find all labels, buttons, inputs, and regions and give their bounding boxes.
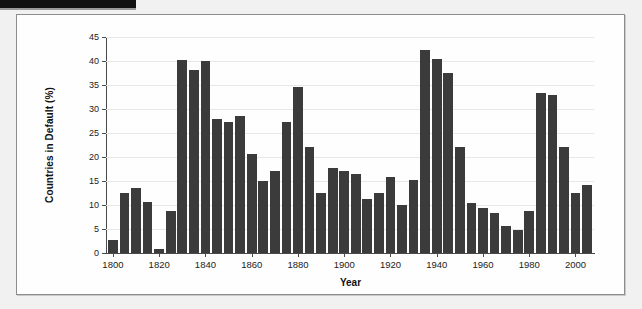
- bar: [339, 171, 349, 253]
- bar: [305, 147, 315, 253]
- y-tick-label: 10: [89, 200, 99, 210]
- y-tick-label: 35: [89, 80, 99, 90]
- y-tick-label: 25: [89, 128, 99, 138]
- bar: [513, 230, 523, 253]
- y-tick-mark: [102, 253, 106, 254]
- bar: [235, 116, 245, 253]
- bar: [536, 93, 546, 253]
- y-tick-mark: [102, 205, 106, 206]
- x-tick-mark: [113, 253, 114, 257]
- y-tick-label: 0: [94, 248, 99, 258]
- bar: [293, 87, 303, 253]
- plot-area: 0510152025303540451800182018401860188019…: [106, 37, 594, 253]
- bar: [282, 122, 292, 253]
- bar: [374, 193, 384, 253]
- x-tick-mark: [437, 253, 438, 257]
- bar: [316, 193, 326, 253]
- bar: [247, 154, 257, 253]
- bar: [270, 171, 280, 253]
- bar: [108, 240, 118, 253]
- screenshot-root: 0510152025303540451800182018401860188019…: [0, 0, 642, 309]
- y-tick-mark: [102, 229, 106, 230]
- bar: [524, 211, 534, 253]
- bar: [362, 199, 372, 253]
- y-axis-label: Countries in Default (%): [43, 37, 57, 253]
- y-tick-mark: [102, 85, 106, 86]
- x-tick-label: 1920: [380, 259, 401, 270]
- bar: [443, 73, 453, 253]
- bar: [120, 193, 130, 253]
- bar: [582, 185, 592, 253]
- chart-figure-frame: 0510152025303540451800182018401860188019…: [16, 14, 625, 295]
- x-tick-mark: [344, 253, 345, 257]
- bar: [559, 147, 569, 253]
- bar: [501, 226, 511, 253]
- x-tick-label: 1880: [287, 259, 308, 270]
- bar: [478, 208, 488, 253]
- cropped-header-strip-shadow: [0, 8, 136, 10]
- x-axis-line: [106, 253, 595, 254]
- x-tick-mark: [483, 253, 484, 257]
- bar: [432, 59, 442, 253]
- x-tick-mark: [390, 253, 391, 257]
- bar: [328, 168, 338, 253]
- x-tick-label: 1800: [102, 259, 123, 270]
- x-tick-label: 1840: [195, 259, 216, 270]
- y-tick-mark: [102, 157, 106, 158]
- x-tick-mark: [252, 253, 253, 257]
- bar: [143, 202, 153, 253]
- bar: [154, 249, 164, 253]
- x-tick-label: 1960: [472, 259, 493, 270]
- y-gridline: [106, 37, 594, 38]
- bar: [224, 122, 234, 253]
- y-tick-label: 30: [89, 104, 99, 114]
- x-tick-label: 1900: [334, 259, 355, 270]
- bar: [189, 70, 199, 253]
- x-tick-mark: [575, 253, 576, 257]
- x-tick-label: 2000: [565, 259, 586, 270]
- y-tick-label: 5: [94, 224, 99, 234]
- x-tick-label: 1860: [241, 259, 262, 270]
- y-tick-label: 40: [89, 56, 99, 66]
- bar: [490, 213, 500, 253]
- x-tick-mark: [529, 253, 530, 257]
- y-tick-mark: [102, 109, 106, 110]
- bar: [201, 61, 211, 253]
- x-tick-mark: [159, 253, 160, 257]
- x-tick-label: 1980: [519, 259, 540, 270]
- bar: [548, 95, 558, 253]
- y-tick-mark: [102, 181, 106, 182]
- bar: [467, 203, 477, 253]
- bar: [455, 147, 465, 253]
- x-axis-label: Year: [106, 277, 595, 288]
- y-tick-label: 45: [89, 32, 99, 42]
- x-tick-label: 1940: [426, 259, 447, 270]
- bar: [258, 181, 268, 253]
- cropped-header-strip: [0, 0, 136, 8]
- y-tick-label: 20: [89, 152, 99, 162]
- bar: [166, 211, 176, 253]
- bar: [420, 50, 430, 253]
- bar: [177, 60, 187, 253]
- y-tick-mark: [102, 61, 106, 62]
- x-tick-mark: [205, 253, 206, 257]
- x-tick-label: 1820: [149, 259, 170, 270]
- bar: [131, 188, 141, 253]
- x-tick-mark: [298, 253, 299, 257]
- plot-area-wrapper: 0510152025303540451800182018401860188019…: [17, 15, 626, 296]
- bar: [212, 119, 222, 253]
- bar: [409, 180, 419, 253]
- bar: [386, 177, 396, 253]
- y-tick-label: 15: [89, 176, 99, 186]
- y-tick-mark: [102, 133, 106, 134]
- bar: [351, 174, 361, 253]
- bar: [397, 205, 407, 253]
- bar: [571, 193, 581, 253]
- y-tick-mark: [102, 37, 106, 38]
